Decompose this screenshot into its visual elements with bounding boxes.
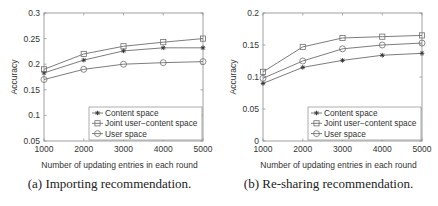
y-tick-label: 0.1: [247, 72, 259, 82]
x-tick-label: 2000: [74, 144, 93, 154]
x-tick-label: 5000: [194, 144, 213, 154]
legend-entry-label: User space: [105, 129, 147, 139]
x-tick-label: 4000: [154, 144, 173, 154]
asterisk-marker-icon: [300, 65, 305, 70]
y-tick-label: 0.05: [242, 104, 259, 114]
x-tick-label: 5000: [413, 144, 432, 154]
y-tick-label: 0.15: [242, 40, 259, 50]
y-tick-label: 0.2: [28, 59, 40, 69]
x-tick-label: 1000: [35, 144, 54, 154]
x-tick-label: 3000: [114, 144, 133, 154]
asterisk-marker-icon: [42, 71, 47, 76]
y-tick-label: 0.15: [23, 85, 40, 95]
legend-entry-label: Joint user−content space: [105, 118, 198, 128]
legend-entry-label: Content space: [324, 108, 378, 118]
legend: Content spaceJoint user−content spaceUse…: [89, 107, 202, 140]
asterisk-marker-icon: [161, 46, 166, 51]
asterisk-marker-icon: [420, 51, 425, 56]
asterisk-marker-icon: [314, 111, 319, 116]
legend-entry-label: Joint user−content space: [324, 118, 417, 128]
x-tick-label: 2000: [293, 144, 312, 154]
legend-entry-label: Content space: [105, 108, 159, 118]
series-square: [41, 36, 205, 72]
y-axis-label: Accuracy: [228, 59, 238, 95]
line-chart-importing: 0.050.10.150.20.250.31000200030004000500…: [0, 0, 219, 175]
x-tick-label: 4000: [373, 144, 392, 154]
asterisk-marker-icon: [95, 111, 100, 116]
asterisk-marker-icon: [261, 81, 266, 86]
figure-caption: (b) Re-sharing recommendation.: [219, 176, 438, 192]
x-tick-label: 1000: [254, 144, 273, 154]
series-circle: [41, 59, 206, 83]
y-tick-label: 0.2: [247, 8, 259, 18]
line-chart-resharing: 00.050.10.150.210002000300040005000Accur…: [219, 0, 438, 175]
x-axis-label: Number of updating entries in each round: [239, 160, 438, 170]
legend: Content spaceJoint user−content spaceUse…: [308, 107, 421, 140]
asterisk-marker-icon: [81, 58, 86, 63]
x-tick-label: 3000: [333, 144, 352, 154]
x-axis-label: Number of updating entries in each round: [20, 160, 219, 170]
chart-panel-a: 0.050.10.150.20.250.31000200030004000500…: [0, 0, 219, 206]
legend-entry-label: User space: [324, 129, 366, 139]
asterisk-marker-icon: [340, 58, 345, 63]
asterisk-marker-icon: [201, 46, 206, 51]
y-tick-label: 0.1: [28, 110, 40, 120]
chart-panel-b: 00.050.10.150.210002000300040005000Accur…: [219, 0, 438, 206]
y-tick-label: 0.3: [28, 8, 40, 18]
y-tick-label: 0.25: [23, 34, 40, 44]
asterisk-marker-icon: [380, 53, 385, 58]
figure-caption: (a) Importing recommendation.: [0, 176, 219, 192]
y-axis-label: Accuracy: [9, 59, 19, 95]
